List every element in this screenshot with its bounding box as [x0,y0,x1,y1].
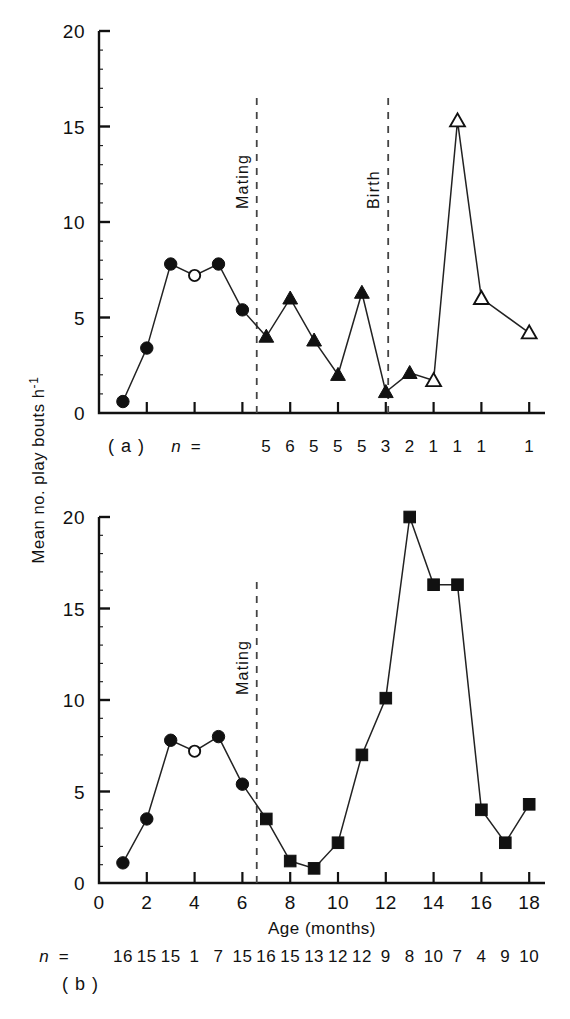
panel-a-n-prefix: n [171,437,180,456]
panel-a-n-value: 1 [476,437,486,456]
panel-b-point-filled-circle [236,778,248,790]
panel-b-x-tick-label: 16 [470,892,492,913]
panel-b-point-filled-square [428,579,440,591]
panel-b-n-value: 7 [453,947,463,966]
panel-a-n-value: 1 [453,437,463,456]
panel-a-data-line [123,121,529,402]
panel-a-point-open-circle [189,270,200,281]
panel-b-y-tick-label: 20 [63,507,85,528]
panel-b-n-value: 8 [405,947,415,966]
figure-root: 05101520MatingBirth051015200246810121416… [0,0,570,1019]
panel-b-point-filled-square [284,855,296,867]
panel-b-n-value: 15 [161,947,181,966]
panel-b-point-filled-square [500,837,512,849]
panel-a-n-value: 5 [357,437,367,456]
panel-b-point-open-circle [189,746,200,757]
panel-b-n-value: 13 [304,947,324,966]
panel-b-n-value: 10 [519,947,539,966]
panel-a-point-filled-triangle [378,385,393,398]
panel-b-n-value: 4 [476,947,486,966]
panel-a-y-tick-label: 15 [63,117,85,138]
panel-a-point-open-triangle [450,113,465,126]
panel-b-point-filled-square [452,579,464,591]
panel-b-x-tick-label: 18 [518,892,540,913]
panel-b-x-tick-label: 4 [189,892,200,913]
panel-b-n-value: 16 [256,947,276,966]
panel-a-n-equals: = [191,437,201,456]
y-axis-title-exponent: -1 [27,377,41,389]
panel-b-n-value: 12 [352,947,372,966]
panel-b-n-prefix: n [39,947,48,966]
panel-b-axis-spine [99,517,545,883]
panel-a-point-open-triangle [522,325,537,338]
panel-b-n-value: 12 [328,947,348,966]
panel-b-point-filled-square [308,863,320,875]
panel-b-y-tick-label: 15 [63,599,85,620]
panel-a-n-value: 5 [309,437,319,456]
panel-b-y-tick-label: 0 [74,873,85,894]
panel-a-event-label-mating: Mating [234,154,251,209]
panel-b-x-tick-label: 8 [285,892,296,913]
panel-b-n-value: 16 [113,947,133,966]
panel-b-point-filled-circle [117,857,129,869]
panel-a-event-label-birth: Birth [365,170,382,209]
panel-a-y-tick-label: 0 [74,403,85,424]
panel-b-point-filled-circle [212,730,224,742]
panel-b-point-filled-square [476,804,488,816]
panel-a-n-value: 5 [333,437,343,456]
panel-a-point-filled-circle [141,342,153,354]
panel-b-n-value: 10 [424,947,444,966]
panel-b-point-filled-square [404,511,416,523]
panel-b-x-tick-label: 0 [93,892,104,913]
panel-a-n-value: 1 [524,437,534,456]
panel-b-n-equals: = [59,947,69,966]
panel-b-x-tick-label: 2 [141,892,152,913]
x-axis-title: Age (months) [268,919,376,938]
panel-b-point-filled-square [356,749,368,761]
panel-a-y-tick-label: 5 [74,308,85,329]
panel-a-point-filled-circle [117,395,129,407]
panel-b-n-value: 9 [381,947,391,966]
panel-b-x-tick-label: 6 [237,892,248,913]
panel-a-y-tick-label: 20 [63,21,85,42]
panel-b-event-label-mating: Mating [234,640,251,695]
panel-a-point-open-triangle [474,291,489,304]
panel-b-label: ( b ) [62,974,99,994]
panel-b-point-filled-square [261,813,273,825]
panel-a-n-value: 6 [285,437,295,456]
panel-b-n-value: 7 [214,947,224,966]
panel-b-n-value: 15 [232,947,252,966]
panel-b-point-filled-circle [141,813,153,825]
panel-b-n-value: 15 [137,947,157,966]
panel-b-n-value: 9 [500,947,510,966]
panel-a-point-filled-triangle [402,365,417,378]
panel-b-y-tick-label: 5 [74,782,85,803]
panel-a-point-filled-triangle [355,285,370,298]
panel-b-y-tick-label: 10 [63,690,85,711]
panel-a-point-filled-circle [165,258,177,270]
panel-a-n-value: 2 [405,437,415,456]
panel-a-n-value: 1 [429,437,439,456]
panel-b-point-filled-square [523,799,535,811]
panel-b-point-filled-square [380,692,392,704]
panel-a-y-tick-label: 10 [63,212,85,233]
panel-b-point-filled-square [332,837,344,849]
panel-a-axis-spine [99,31,545,413]
play-bouts-figure: 05101520MatingBirth051015200246810121416… [0,0,570,1019]
panel-b-x-tick-label: 14 [423,892,445,913]
panel-a-point-filled-circle [212,258,224,270]
panel-a-point-filled-triangle [331,367,346,380]
panel-b-point-filled-circle [165,734,177,746]
panel-b-n-value: 15 [280,947,300,966]
panel-a-point-filled-triangle [283,291,298,304]
panel-a-n-value: 5 [261,437,271,456]
panel-b-x-tick-label: 12 [375,892,397,913]
y-axis-title: Mean no. play bouts h-1 [27,377,47,564]
panel-b-n-value: 1 [190,947,200,966]
panel-a-point-filled-circle [236,304,248,316]
panel-b-x-tick-label: 10 [327,892,349,913]
panel-a-point-filled-triangle [307,333,322,346]
panel-b-data-line [123,517,529,868]
panel-a-n-value: 3 [381,437,391,456]
panel-a-label: ( a ) [108,436,145,456]
